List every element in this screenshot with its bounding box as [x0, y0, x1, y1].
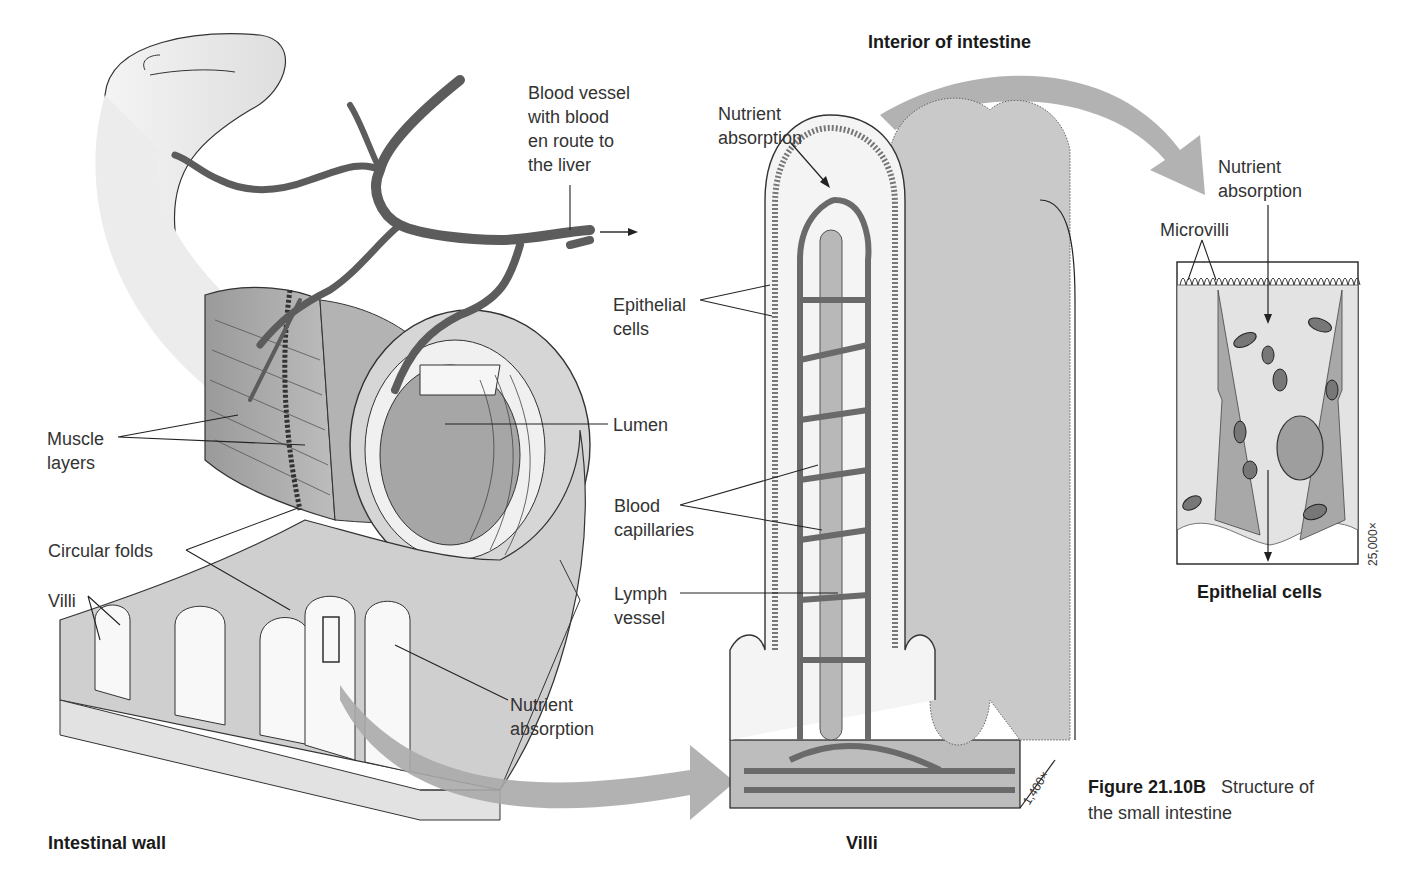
nucleus: [1277, 416, 1323, 480]
label-muscle-layers: Muscle layers: [47, 427, 104, 475]
epithelial-cells-panel: [1177, 205, 1360, 564]
label-villi: Villi: [48, 589, 76, 613]
label-epithelial-cells: Epithelial cells: [613, 293, 686, 341]
villi-title: Villi: [846, 833, 878, 854]
label-lumen: Lumen: [613, 413, 668, 437]
caption-line-2: the small intestine: [1088, 803, 1232, 823]
label-microvilli: Microvilli: [1160, 218, 1229, 242]
label-nutrient-absorption-cells: Nutrient absorption: [1218, 155, 1302, 203]
label-lymph-vessel: Lymph vessel: [614, 582, 667, 630]
small-intestine-illustration: [0, 0, 1422, 881]
villi-block: [730, 98, 1075, 808]
figure-number: Figure 21.10B: [1088, 777, 1206, 797]
caption-line-1: Structure of: [1221, 777, 1314, 797]
label-blood-capillaries: Blood capillaries: [614, 494, 694, 542]
epithelial-magnification: 25,000×: [1366, 522, 1380, 566]
label-blood-vessel: Blood vessel with blood en route to the …: [528, 81, 630, 177]
epithelial-cells-title: Epithelial cells: [1197, 582, 1322, 603]
intestinal-wall-title: Intestinal wall: [48, 833, 166, 854]
figure-caption: Figure 21.10B Structure of the small int…: [1088, 774, 1314, 826]
label-circular-folds: Circular folds: [48, 539, 153, 563]
label-nutrient-absorption-villi: Nutrient absorption: [718, 102, 802, 150]
interior-of-intestine-header: Interior of intestine: [868, 32, 1031, 53]
label-nutrient-absorption-wall: Nutrient absorption: [510, 693, 594, 741]
